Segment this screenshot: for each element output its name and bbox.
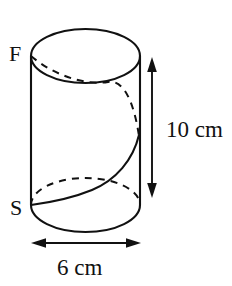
cylinder-diagram: F S 10 cm 6 cm (0, 0, 232, 286)
helix-visible-segment (31, 135, 139, 205)
helix-hidden-segment (31, 56, 139, 136)
cylinder-bottom-front-arc (31, 205, 140, 232)
height-dimension-arrow (147, 57, 157, 198)
label-diameter-dimension: 6 cm (57, 255, 102, 280)
diameter-dimension-arrow (31, 238, 141, 248)
diameter-arrowhead-right-icon (126, 238, 141, 248)
height-arrowhead-up-icon (147, 57, 157, 72)
cylinder-top-ellipse (31, 29, 140, 83)
cylinder-diagram-svg: F S 10 cm 6 cm (0, 0, 232, 286)
diameter-arrowhead-left-icon (31, 238, 46, 248)
label-height-dimension: 10 cm (166, 117, 223, 142)
label-point-f: F (9, 41, 21, 66)
label-point-s: S (10, 195, 22, 220)
height-arrowhead-down-icon (147, 183, 157, 198)
